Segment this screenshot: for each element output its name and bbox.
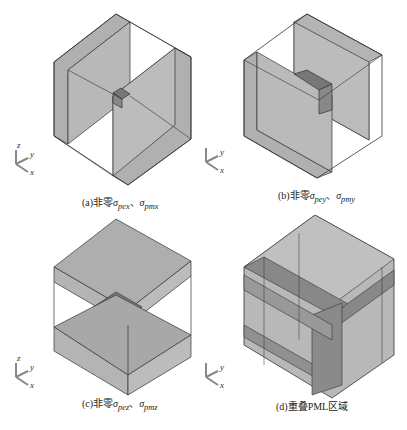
panel-a: z y x (a)非零σpex、σpmx [0, 0, 204, 215]
caption-c: (c)非零σpez、σpmz [82, 395, 158, 412]
panel-c: z y x (c)非零σpez、σpmz [0, 215, 204, 405]
cube-diagram-b [204, 0, 407, 215]
panel-d: y x (d)重叠PML区域 [204, 215, 407, 430]
axis-y-label: y [220, 147, 224, 157]
caption-a: (a)非零σpex、σpmx [82, 194, 158, 211]
panel-b: y x (b)非零σpey、σpmy [204, 0, 407, 215]
axes-indicator-b: y x [198, 140, 238, 180]
axis-y-label: y [30, 362, 34, 372]
axis-y-label: y [30, 149, 34, 159]
axis-z-label: z [17, 140, 21, 150]
cube-diagram-a [0, 0, 204, 215]
axes-indicator-d: y x [198, 355, 238, 395]
axis-x-label: x [220, 380, 224, 390]
axis-y-label: y [220, 362, 224, 372]
axis-z-label: z [17, 353, 21, 363]
axis-x-label: x [220, 165, 224, 175]
caption-d: (d)重叠PML区域 [276, 398, 348, 413]
caption-b: (b)非零σpey、σpmy [278, 187, 355, 204]
axis-x-label: x [30, 380, 34, 390]
axes-indicator-a: z y x [8, 142, 48, 182]
axis-x-label: x [30, 167, 34, 177]
axes-indicator-c: z y x [8, 355, 48, 395]
